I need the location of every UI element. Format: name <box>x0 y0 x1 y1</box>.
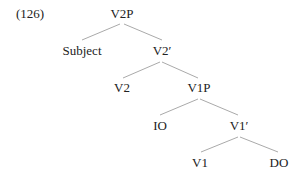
node-v1-bar: V1′ <box>230 119 249 133</box>
node-v2p: V2P <box>110 7 133 21</box>
node-v1: V1 <box>192 156 208 170</box>
node-v1p: V1P <box>187 81 210 95</box>
example-number: (126) <box>16 7 44 21</box>
tree-branches <box>0 0 300 178</box>
node-v2: V2 <box>114 81 130 95</box>
node-io: IO <box>153 119 167 133</box>
node-do: DO <box>270 156 289 170</box>
node-subject: Subject <box>63 44 102 58</box>
node-v2-bar: V2′ <box>153 44 172 58</box>
